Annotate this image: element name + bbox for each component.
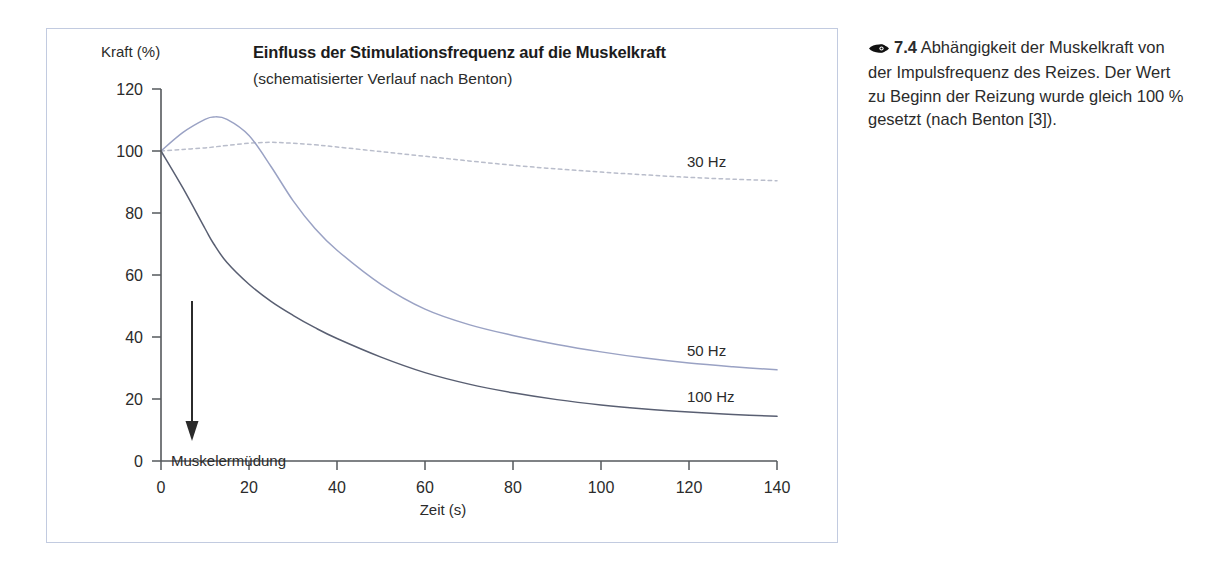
y-ticks-group: 020406080100120 <box>116 81 161 470</box>
figure-caption: 7.4 Abhängigkeit der Muskelkraft von der… <box>868 36 1184 132</box>
y-tick-label: 40 <box>125 329 143 346</box>
x-tick-label: 80 <box>504 479 522 496</box>
x-tick-label: 100 <box>588 479 615 496</box>
line-chart-plot: 020406080100120 020406080100120140 Muske… <box>47 29 839 544</box>
x-tick-label: 0 <box>157 479 166 496</box>
y-tick-label: 60 <box>125 267 143 284</box>
muskelermuedung-annotation: Muskelermüdung <box>171 301 286 469</box>
y-tick-label: 0 <box>134 453 143 470</box>
eye-icon <box>868 38 890 61</box>
caption-number: 7.4 <box>894 38 917 56</box>
curves-group <box>161 117 777 417</box>
series-labels-group: 30 Hz50 Hz100 Hz <box>687 153 735 406</box>
fatigue-annotation-label: Muskelermüdung <box>171 452 286 469</box>
series-label-100-hz: 100 Hz <box>687 388 735 405</box>
y-tick-label: 120 <box>116 81 143 98</box>
curve-50-hz <box>161 117 777 370</box>
series-label-50-hz: 50 Hz <box>687 342 726 359</box>
x-tick-label: 20 <box>240 479 258 496</box>
y-tick-label: 20 <box>125 391 143 408</box>
fatigue-arrow-head <box>186 421 199 441</box>
figure-frame: Einfluss der Stimulationsfrequenz auf di… <box>46 28 838 543</box>
x-tick-label: 120 <box>676 479 703 496</box>
y-tick-label: 80 <box>125 205 143 222</box>
curve-30-hz <box>161 142 777 180</box>
y-tick-label: 100 <box>116 143 143 160</box>
x-tick-label: 140 <box>764 479 791 496</box>
x-tick-label: 60 <box>416 479 434 496</box>
series-label-30-hz: 30 Hz <box>687 153 726 170</box>
curve-100-hz <box>161 151 777 416</box>
x-tick-label: 40 <box>328 479 346 496</box>
